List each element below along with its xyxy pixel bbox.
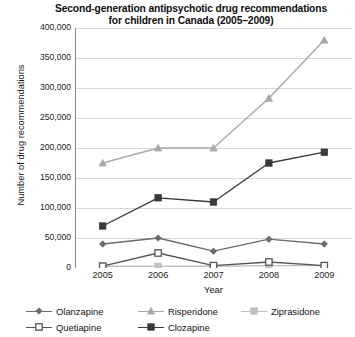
series-marker [210, 199, 216, 205]
legend-marker-icon [26, 321, 52, 333]
x-axis-tick-label: 2008 [246, 270, 292, 280]
plot-svg [75, 28, 352, 268]
legend-marker-icon [138, 305, 164, 317]
legend-marker-glyph [147, 307, 155, 315]
legend-marker-glyph [35, 323, 43, 331]
x-axis-tick-labels: 20052006200720082009 [75, 270, 352, 284]
series-marker [266, 160, 272, 166]
series-marker [266, 259, 272, 265]
legend-item-olanzapine[interactable]: Olanzapine [26, 303, 103, 319]
legend-label: Olanzapine [52, 306, 103, 317]
legend-label: Ziprasidone [267, 306, 320, 317]
legend-marker-icon [138, 321, 164, 333]
chart-legend: OlanzapineRisperidoneZiprasidoneQuetiapi… [26, 303, 348, 337]
series-marker [155, 195, 161, 201]
y-axis-tick-label: 50,000 [13, 233, 71, 242]
series-marker [100, 223, 106, 229]
legend-label: Risperidone [164, 306, 218, 317]
series-line [103, 152, 325, 226]
legend-marker-icon [26, 305, 52, 317]
legend-item-clozapine[interactable]: Clozapine [138, 319, 210, 335]
legend-marker-shape [36, 324, 42, 330]
legend-marker-glyph [250, 307, 258, 315]
legend-item-risperidone[interactable]: Risperidone [138, 303, 218, 319]
legend-item-quetiapine[interactable]: Quetiapine [26, 319, 101, 335]
legend-marker-shape [36, 308, 42, 314]
series-marker [155, 263, 161, 268]
series-marker [266, 236, 272, 242]
y-axis-tick-label: 400,000 [13, 23, 71, 32]
x-axis-tick-label: 2005 [80, 270, 126, 280]
legend-row: QuetiapineClozapine [26, 319, 348, 335]
series-marker [210, 248, 216, 254]
series-risperidone [99, 36, 328, 166]
legend-marker-shape [148, 324, 154, 330]
series-marker [155, 250, 161, 256]
legend-marker-icon [241, 305, 267, 317]
series-marker [100, 263, 106, 268]
y-axis-title: Number of drug recommendations [16, 40, 26, 230]
chart-title-line-2: for children in Canada (2005–2009) [109, 15, 274, 26]
x-axis-tick-label: 2006 [135, 270, 181, 280]
legend-marker-glyph [147, 323, 155, 331]
series-marker [321, 149, 327, 155]
series-marker [321, 241, 327, 247]
chart-title: Second-generation antipsychotic drug rec… [30, 3, 352, 28]
legend-marker-shape [251, 308, 257, 314]
y-axis-tick-label: 0 [13, 263, 71, 272]
legend-item-ziprasidone[interactable]: Ziprasidone [241, 303, 320, 319]
legend-label: Quetiapine [52, 322, 101, 333]
chart-container: Second-generation antipsychotic drug rec… [0, 0, 355, 337]
series-marker [321, 262, 327, 268]
plot-area [75, 28, 352, 268]
series-marker [100, 241, 106, 247]
x-axis-tick-label: 2009 [301, 270, 347, 280]
series-olanzapine [100, 235, 328, 255]
x-axis-tick-label: 2007 [191, 270, 237, 280]
legend-marker-glyph [35, 307, 43, 315]
legend-row: OlanzapineRisperidoneZiprasidone [26, 303, 348, 319]
legend-marker-shape [147, 307, 154, 314]
series-marker [321, 36, 328, 43]
series-marker [210, 262, 216, 268]
series-clozapine [100, 149, 328, 229]
series-marker [155, 235, 161, 241]
x-axis-title: Year [75, 285, 352, 295]
chart-title-line-1: Second-generation antipsychotic drug rec… [55, 3, 327, 14]
legend-label: Clozapine [164, 322, 210, 333]
